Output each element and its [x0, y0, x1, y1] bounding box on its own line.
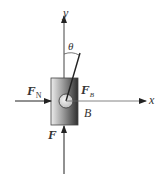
x-axis-label: x: [148, 93, 155, 107]
block-label: B: [84, 106, 92, 120]
y-axis-label: y: [62, 6, 69, 20]
theta-arc: [64, 53, 79, 55]
theta-label: θ: [68, 40, 74, 52]
force-fb-label: FB: [80, 82, 95, 99]
force-fn-label: FN: [26, 83, 42, 100]
force-f-label: F: [47, 127, 57, 142]
free-body-diagram: y θ x FN FB B F: [0, 0, 163, 184]
